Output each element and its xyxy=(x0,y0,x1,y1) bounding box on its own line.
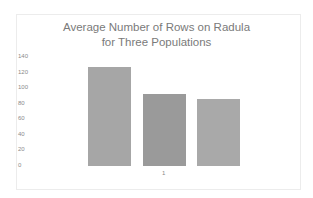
y-tick-label: 140 xyxy=(18,53,40,59)
y-tick-label: 0 xyxy=(18,162,40,168)
y-tick-label: 40 xyxy=(18,131,40,137)
y-tick-label: 100 xyxy=(18,84,40,90)
bar-2 xyxy=(143,94,186,166)
chart-title-line-2: for Three Populations xyxy=(0,35,313,50)
bar-3 xyxy=(197,99,240,166)
chart-title-line-1: Average Number of Rows on Radula xyxy=(0,20,313,35)
y-tick-label: 60 xyxy=(18,115,40,121)
x-tick-label: 1 xyxy=(162,170,165,176)
y-tick-label: 80 xyxy=(18,100,40,106)
bar-1 xyxy=(88,67,131,166)
y-tick-label: 20 xyxy=(18,146,40,152)
y-tick-label: 120 xyxy=(18,69,40,75)
chart-title: Average Number of Rows on Radula for Thr… xyxy=(0,20,313,50)
